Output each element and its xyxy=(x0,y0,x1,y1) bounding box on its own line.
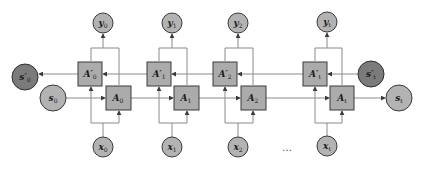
step-0: y0 A′0 A0 x0 xyxy=(78,13,131,157)
state-backward-final-s0-prime: s′0 xyxy=(12,64,38,90)
state-forward-initial-s0: s0 xyxy=(40,85,66,111)
step-2: y2 A′2 A2 x2 xyxy=(213,13,266,157)
step-t: yt A′t At xt xyxy=(303,12,354,156)
state-backward-initial-st-prime: s′t xyxy=(358,61,384,87)
state-forward-final-st: st xyxy=(386,85,412,111)
ellipsis: … xyxy=(282,142,292,153)
bidirectional-rnn-diagram: s′0 s0 s′t st y0 A′0 A0 x0 y1 A′1 A1 x1 … xyxy=(0,0,421,172)
step-1: y1 A′1 A1 x1 xyxy=(147,13,199,157)
